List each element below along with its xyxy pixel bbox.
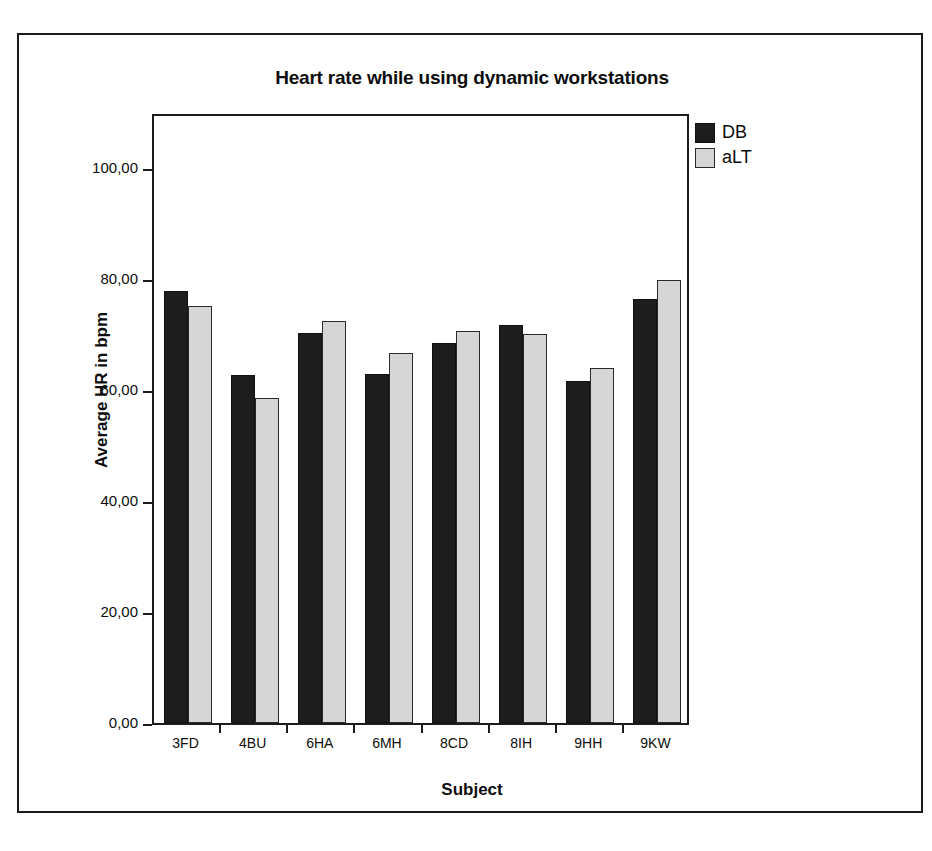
y-tick-label: 60,00 <box>100 381 138 398</box>
y-tick-mark <box>143 280 152 282</box>
y-tick-mark <box>143 502 152 504</box>
x-tick-label-6HA: 6HA <box>286 735 353 751</box>
bar-6MH-aLT <box>389 353 413 723</box>
bar-3FD-aLT <box>188 306 212 723</box>
x-tick-mark <box>488 725 490 733</box>
x-tick-label-8CD: 8CD <box>421 735 488 751</box>
y-tick-label: 20,00 <box>100 603 138 620</box>
y-tick-label: 100,00 <box>92 159 138 176</box>
plot-area <box>152 114 689 725</box>
bar-8IH-DB <box>499 325 523 723</box>
bar-chart: Heart rate while using dynamic workstati… <box>19 35 925 815</box>
legend-label: DB <box>722 122 747 143</box>
bar-6HA-aLT <box>322 321 346 723</box>
bar-9HH-aLT <box>590 368 614 723</box>
legend-label: aLT <box>722 147 752 168</box>
y-tick-label: 0,00 <box>109 714 138 731</box>
dark-swatch <box>695 123 715 143</box>
bar-9HH-DB <box>566 381 590 723</box>
y-tick-mark <box>143 169 152 171</box>
light-swatch <box>695 148 715 168</box>
x-tick-mark <box>353 725 355 733</box>
x-tick-label-4BU: 4BU <box>219 735 286 751</box>
chart-legend: DBaLT <box>695 120 815 170</box>
legend-item-DB[interactable]: DB <box>695 120 815 145</box>
page-border: Heart rate while using dynamic workstati… <box>17 33 923 813</box>
y-tick-mark <box>143 724 152 726</box>
bar-8CD-aLT <box>456 331 480 723</box>
bar-3FD-DB <box>164 291 188 723</box>
x-tick-label-3FD: 3FD <box>152 735 219 751</box>
bar-9KW-aLT <box>657 280 681 723</box>
y-tick-label: 80,00 <box>100 270 138 287</box>
bar-6MH-DB <box>365 374 389 723</box>
x-tick-mark <box>421 725 423 733</box>
bar-4BU-DB <box>231 375 255 723</box>
y-tick-label: 40,00 <box>100 492 138 509</box>
bar-9KW-DB <box>633 299 657 723</box>
y-tick-mark <box>143 613 152 615</box>
bar-4BU-aLT <box>255 398 279 723</box>
x-tick-label-8IH: 8IH <box>488 735 555 751</box>
x-tick-mark <box>286 725 288 733</box>
x-tick-label-9KW: 9KW <box>622 735 689 751</box>
plot-inner <box>154 116 687 723</box>
x-tick-label-6MH: 6MH <box>353 735 420 751</box>
x-tick-mark <box>219 725 221 733</box>
bar-8CD-DB <box>432 343 456 723</box>
chart-title: Heart rate while using dynamic workstati… <box>19 67 925 89</box>
x-tick-mark <box>555 725 557 733</box>
x-tick-mark <box>622 725 624 733</box>
y-tick-mark <box>143 391 152 393</box>
bar-8IH-aLT <box>523 334 547 723</box>
x-tick-label-9HH: 9HH <box>555 735 622 751</box>
legend-item-aLT[interactable]: aLT <box>695 145 815 170</box>
x-axis-title: Subject <box>19 780 925 800</box>
bar-6HA-DB <box>298 333 322 723</box>
